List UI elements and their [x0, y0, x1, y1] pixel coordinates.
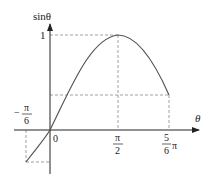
tick-label-neg-pi-6: − π 6	[14, 102, 32, 126]
tick-label-5pi-6: 5 6 π	[162, 132, 177, 156]
svg-text:π: π	[115, 132, 120, 143]
origin-label: 0	[53, 133, 58, 144]
svg-text:2: 2	[115, 145, 120, 156]
guide-lines	[26, 35, 169, 162]
tick-label-pi-2: π 2	[113, 132, 123, 156]
svg-text:π: π	[172, 140, 177, 151]
svg-text:−: −	[14, 107, 20, 118]
svg-text:π: π	[24, 102, 29, 113]
y-axis-label: sinθ	[33, 10, 51, 22]
x-axis-label: θ	[195, 112, 201, 124]
svg-text:6: 6	[24, 115, 29, 126]
svg-text:6: 6	[164, 145, 169, 156]
svg-text:5: 5	[164, 132, 169, 143]
y-tick-1: 1	[40, 29, 46, 41]
sine-graph: sinθ 1 θ 0 − π 6 π 2 5 6 π	[0, 0, 208, 180]
sine-curve	[26, 35, 169, 162]
